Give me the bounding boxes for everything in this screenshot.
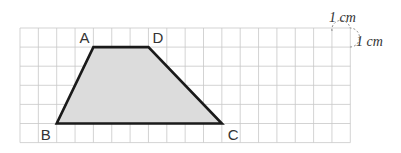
vertex-label-a: A [79, 29, 89, 46]
unit-label-side: 1 cm [356, 34, 383, 49]
unit-label-top: 1 cm [329, 10, 356, 25]
vertex-label-b: B [41, 126, 51, 143]
vertex-label-c: C [228, 126, 239, 143]
vertex-label-d: D [152, 29, 163, 46]
trapezoid-diagram: ADCB 1 cm 1 cm [0, 0, 401, 153]
